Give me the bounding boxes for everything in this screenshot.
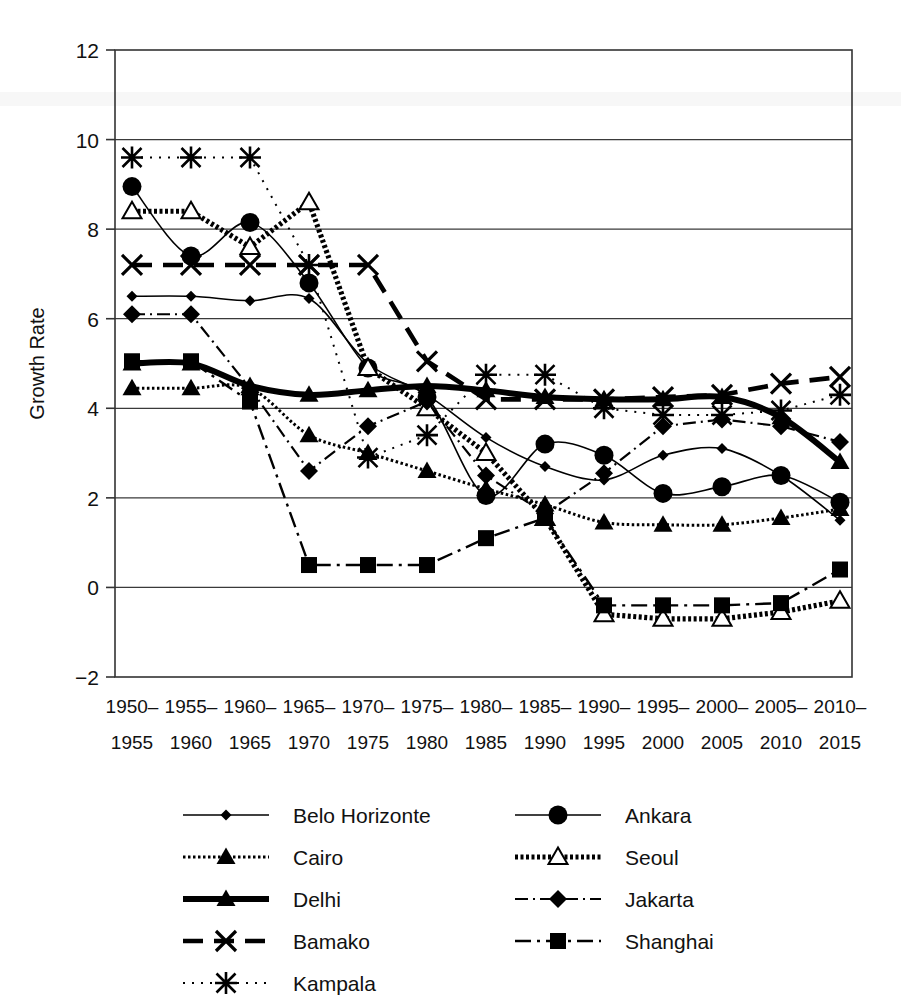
data-point-marker: [301, 557, 317, 573]
legend-label: Bamako: [293, 930, 370, 953]
x-tick-label-bottom: 1990: [524, 732, 566, 753]
data-point-marker: [357, 447, 379, 469]
data-point-marker: [478, 530, 494, 546]
data-point-marker: [549, 806, 568, 825]
x-tick-label-top: 1975–: [401, 696, 454, 717]
legend-label: Cairo: [293, 846, 343, 869]
legend-label: Kampala: [293, 972, 376, 995]
data-point-marker: [713, 477, 732, 496]
x-tick-label-top: 2005–: [755, 696, 808, 717]
y-tick-label: −2: [75, 666, 99, 689]
data-point-marker: [536, 435, 555, 454]
data-point-marker: [239, 146, 261, 168]
data-point-marker: [477, 486, 496, 505]
data-point-marker: [182, 247, 201, 266]
data-point-marker: [596, 597, 612, 613]
data-point-marker: [123, 177, 142, 196]
y-tick-label: 6: [87, 308, 99, 331]
x-tick-label-bottom: 1970: [288, 732, 330, 753]
x-tick-label-top: 1965–: [283, 696, 336, 717]
x-tick-label-bottom: 1955: [111, 732, 153, 753]
x-tick-label-top: 1980–: [460, 696, 513, 717]
x-tick-label-bottom: 2005: [701, 732, 743, 753]
data-point-marker: [832, 562, 848, 578]
data-point-marker: [124, 353, 140, 369]
data-point-marker: [241, 213, 260, 232]
x-tick-label-bottom: 2010: [760, 732, 802, 753]
x-tick-label-bottom: 1985: [465, 732, 507, 753]
data-point-marker: [180, 146, 202, 168]
data-point-marker: [654, 484, 673, 503]
legend-label: Delhi: [293, 888, 341, 911]
data-point-marker: [773, 595, 789, 611]
data-point-marker: [475, 364, 497, 386]
legend-label: Seoul: [625, 846, 679, 869]
x-tick-label-top: 1990–: [578, 696, 631, 717]
data-point-marker: [772, 466, 791, 485]
x-tick-label-bottom: 1995: [583, 732, 625, 753]
data-point-marker: [360, 557, 376, 573]
data-point-marker: [121, 146, 143, 168]
data-point-marker: [550, 933, 566, 949]
growth-rate-line-chart: 121086420−2Growth Rate1950–19551955–1960…: [0, 0, 901, 1003]
data-point-marker: [829, 384, 851, 406]
data-point-marker: [655, 597, 671, 613]
x-tick-label-top: 1950–: [106, 696, 159, 717]
data-point-marker: [419, 557, 435, 573]
legend-label: Jakarta: [625, 888, 694, 911]
data-point-marker: [537, 510, 553, 526]
data-point-marker: [215, 972, 237, 994]
x-tick-label-top: 1955–: [165, 696, 218, 717]
x-tick-label-bottom: 2000: [642, 732, 684, 753]
y-tick-label: 0: [87, 576, 99, 599]
data-point-marker: [595, 446, 614, 465]
y-tick-label: 12: [76, 39, 99, 62]
y-tick-label: 2: [87, 487, 99, 510]
y-tick-label: 4: [87, 397, 99, 420]
chart-figure: 121086420−2Growth Rate1950–19551955–1960…: [0, 0, 901, 1003]
data-point-marker: [593, 397, 615, 419]
x-tick-label-bottom: 1980: [406, 732, 448, 753]
x-tick-label-top: 1985–: [519, 696, 572, 717]
data-point-marker: [831, 493, 850, 512]
x-tick-label-bottom: 1975: [347, 732, 389, 753]
data-point-marker: [242, 394, 258, 410]
data-point-marker: [300, 273, 319, 292]
x-tick-label-bottom: 1960: [170, 732, 212, 753]
page-background: [0, 0, 901, 1003]
y-tick-label: 10: [76, 129, 99, 152]
x-tick-label-top: 1960–: [224, 696, 277, 717]
legend-label: Shanghai: [625, 930, 714, 953]
y-axis-title: Growth Rate: [26, 307, 48, 419]
x-tick-label-bottom: 2015: [819, 732, 861, 753]
x-tick-label-top: 1970–: [342, 696, 395, 717]
x-tick-label-top: 1995–: [637, 696, 690, 717]
x-tick-label-top: 2010–: [814, 696, 867, 717]
data-point-marker: [534, 364, 556, 386]
x-tick-label-bottom: 1965: [229, 732, 271, 753]
legend-label: Ankara: [625, 804, 692, 827]
data-point-marker: [714, 597, 730, 613]
x-tick-label-top: 2000–: [696, 696, 749, 717]
y-tick-label: 8: [87, 218, 99, 241]
data-point-marker: [416, 424, 438, 446]
scan-band: [0, 92, 901, 106]
legend-label: Belo Horizonte: [293, 804, 431, 827]
data-point-marker: [183, 353, 199, 369]
